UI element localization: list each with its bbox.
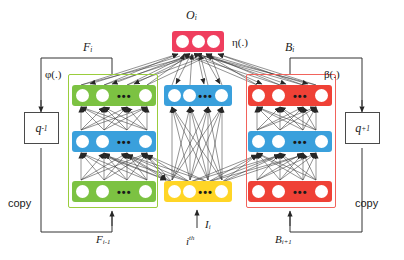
forward-prev-symbol: F <box>96 233 103 245</box>
forward-state-subscript: i <box>90 45 92 54</box>
backward-next-subscript: i+1 <box>282 238 292 245</box>
neuron[interactable] <box>192 35 205 48</box>
forward-bottom-row[interactable]: ••• <box>72 181 156 202</box>
beta-activation-label: β(.) <box>324 68 340 80</box>
neuron[interactable] <box>168 185 181 198</box>
neuron[interactable] <box>168 89 181 102</box>
input-row[interactable]: ••• <box>164 181 232 202</box>
neuron[interactable] <box>315 185 328 198</box>
forward-prev-state-label: Fi-1 <box>96 233 110 245</box>
output-row[interactable] <box>172 31 224 52</box>
copy-label-right: copy <box>355 197 378 209</box>
neuron[interactable] <box>176 35 189 48</box>
output-symbol: O <box>186 8 195 22</box>
neuron[interactable] <box>272 135 285 148</box>
unit-delay-box[interactable]: q-1 <box>24 112 59 144</box>
forward-top-row[interactable]: ••• <box>72 85 156 106</box>
backward-top-row[interactable]: ••• <box>248 85 332 106</box>
phi-activation-label: φ(.) <box>45 68 61 80</box>
center-hidden-row[interactable]: ••• <box>164 85 232 106</box>
backward-next-state-label: Bi+1 <box>275 233 292 245</box>
neuron[interactable] <box>315 89 328 102</box>
neuron[interactable] <box>252 185 265 198</box>
neuron[interactable] <box>252 89 265 102</box>
backward-mid-row[interactable]: ••• <box>248 131 332 152</box>
neuron[interactable] <box>76 185 89 198</box>
ith-index-label: ith <box>186 234 194 247</box>
neuron[interactable] <box>96 185 109 198</box>
neuron[interactable] <box>183 89 196 102</box>
input-subscript: i <box>209 223 211 230</box>
neuron[interactable] <box>252 135 265 148</box>
neuron[interactable] <box>315 135 328 148</box>
input-label: Ii <box>205 218 211 230</box>
neuron[interactable] <box>139 89 152 102</box>
neuron[interactable] <box>76 89 89 102</box>
backward-next-symbol: B <box>275 233 282 245</box>
neuron[interactable] <box>272 185 285 198</box>
neuron[interactable] <box>139 185 152 198</box>
neuron[interactable] <box>207 35 220 48</box>
neuron[interactable] <box>215 185 228 198</box>
backward-state-label: Bi <box>285 40 294 55</box>
eta-activation-label: η(.) <box>232 36 248 48</box>
forward-state-label: Fi <box>83 40 92 55</box>
unit-advance-box[interactable]: q+1 <box>345 112 380 144</box>
neuron[interactable] <box>139 135 152 148</box>
neuron[interactable] <box>272 89 285 102</box>
neuron[interactable] <box>96 135 109 148</box>
neuron[interactable] <box>215 89 228 102</box>
copy-label-left: copy <box>8 197 31 209</box>
backward-bottom-row[interactable]: ••• <box>248 181 332 202</box>
neuron[interactable] <box>183 185 196 198</box>
neuron[interactable] <box>76 135 89 148</box>
neuron[interactable] <box>96 89 109 102</box>
output-label: Oi <box>186 8 197 23</box>
unit-delay-exponent: -1 <box>41 124 47 133</box>
diagram-canvas: ••• ••• ••• ••• ••• ••• <box>0 0 404 260</box>
output-subscript: i <box>195 13 197 22</box>
backward-state-subscript: i <box>292 45 294 54</box>
forward-mid-row[interactable]: ••• <box>72 131 156 152</box>
unit-advance-exponent: +1 <box>361 124 370 133</box>
ith-superscript: th <box>189 234 194 241</box>
forward-prev-subscript: i-1 <box>103 238 111 245</box>
